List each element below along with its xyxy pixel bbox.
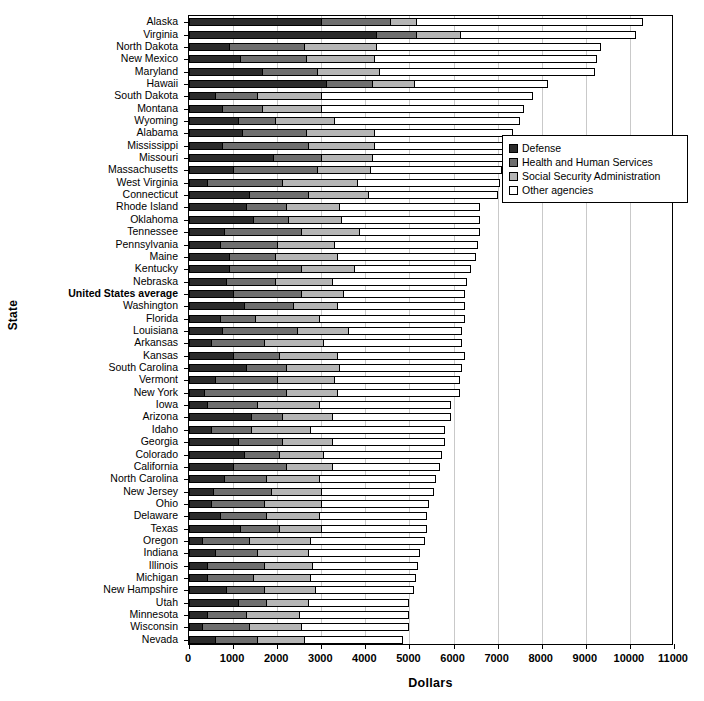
bar-kentucky <box>189 265 471 273</box>
bar-segment-other-agencies <box>337 389 460 397</box>
bar-segment-health-and-human-services <box>215 92 257 100</box>
bar-segment-defense <box>189 278 226 286</box>
bar-segment-social-security-administration <box>264 562 313 570</box>
bar-new-hampshire <box>189 586 414 594</box>
bar-segment-social-security-administration <box>286 389 337 397</box>
bar-segment-defense <box>189 611 207 619</box>
bar-south-dakota <box>189 92 533 100</box>
bar-segment-social-security-administration <box>277 376 334 384</box>
bar-segment-defense <box>189 179 207 187</box>
bar-minnesota <box>189 611 409 619</box>
bar-segment-health-and-human-services <box>207 179 282 187</box>
bar-connecticut <box>189 191 498 199</box>
bar-segment-social-security-administration <box>282 179 357 187</box>
bar-segment-health-and-human-services <box>215 549 257 557</box>
bar-segment-other-agencies <box>372 154 504 162</box>
bar-segment-health-and-human-services <box>321 18 389 26</box>
bar-segment-defense <box>189 525 240 533</box>
bar-segment-health-and-human-services <box>246 364 286 372</box>
bar-georgia <box>189 438 445 446</box>
bar-segment-health-and-human-services <box>220 512 266 520</box>
bar-segment-social-security-administration <box>253 574 310 582</box>
bar-segment-health-and-human-services <box>202 623 248 631</box>
bar-segment-defense <box>189 574 207 582</box>
bar-south-carolina <box>189 364 462 372</box>
bar-segment-other-agencies <box>374 142 511 150</box>
bar-segment-defense <box>189 599 238 607</box>
bar-arizona <box>189 413 451 421</box>
bar-segment-defense <box>189 191 249 199</box>
bar-segment-social-security-administration <box>301 228 358 236</box>
bar-segment-social-security-administration <box>266 599 308 607</box>
bar-segment-health-and-human-services <box>207 611 247 619</box>
category-label: Washington <box>22 300 178 311</box>
bar-maine <box>189 253 476 261</box>
bar-segment-health-and-human-services <box>229 43 304 51</box>
bar-segment-health-and-human-services <box>222 142 308 150</box>
bar-segment-defense <box>189 463 233 471</box>
bar-illinois <box>189 562 418 570</box>
bar-segment-social-security-administration <box>249 537 311 545</box>
bar-segment-social-security-administration <box>301 265 354 273</box>
category-label: California <box>22 461 178 472</box>
bar-nebraska <box>189 278 467 286</box>
bar-oklahoma <box>189 216 480 224</box>
bar-segment-social-security-administration <box>257 401 319 409</box>
legend-swatch-icon <box>509 158 518 167</box>
bar-segment-social-security-administration <box>255 315 319 323</box>
bar-california <box>189 463 440 471</box>
bar-segment-defense <box>189 55 240 63</box>
bar-arkansas <box>189 339 462 347</box>
category-label: Georgia <box>22 436 178 447</box>
bar-segment-health-and-human-services <box>238 117 275 125</box>
bar-north-dakota <box>189 43 601 51</box>
bar-segment-defense <box>189 290 233 298</box>
bar-segment-health-and-human-services <box>233 290 301 298</box>
bar-segment-social-security-administration <box>297 327 348 335</box>
bar-segment-other-agencies <box>332 438 444 446</box>
bar-segment-defense <box>189 549 215 557</box>
bar-segment-defense <box>189 68 262 76</box>
bar-segment-other-agencies <box>319 401 451 409</box>
bar-segment-health-and-human-services <box>207 574 253 582</box>
bars-container <box>189 16 672 644</box>
bar-segment-other-agencies <box>334 241 477 249</box>
x-axis-tick <box>321 644 322 649</box>
category-label: West Virginia <box>22 177 178 188</box>
bar-segment-defense <box>189 475 224 483</box>
legend-label: Other agencies <box>522 185 593 196</box>
x-axis-tick-label: 2000 <box>264 652 288 664</box>
x-axis-tick-label: 10000 <box>614 652 645 664</box>
bar-segment-other-agencies <box>370 166 502 174</box>
bar-segment-health-and-human-services <box>246 203 286 211</box>
legend-item: Social Security Administration <box>509 169 681 183</box>
x-axis-tick-label: 4000 <box>352 652 376 664</box>
bar-north-carolina <box>189 475 436 483</box>
category-label: Idaho <box>22 424 178 435</box>
bar-segment-social-security-administration <box>321 154 372 162</box>
bar-segment-defense <box>189 253 229 261</box>
bar-oregon <box>189 537 425 545</box>
bar-segment-defense <box>189 105 222 113</box>
bar-virginia <box>189 31 636 39</box>
bar-florida <box>189 315 465 323</box>
bar-segment-other-agencies <box>323 451 442 459</box>
bar-segment-social-security-administration <box>257 92 321 100</box>
bar-wyoming <box>189 117 520 125</box>
bar-segment-defense <box>189 265 229 273</box>
bar-segment-defense <box>189 43 229 51</box>
bar-segment-health-and-human-services <box>240 55 306 63</box>
bar-segment-health-and-human-services <box>224 475 266 483</box>
bar-segment-health-and-human-services <box>220 241 277 249</box>
bar-michigan <box>189 574 416 582</box>
bar-segment-social-security-administration <box>275 117 335 125</box>
bar-segment-social-security-administration <box>279 525 321 533</box>
bar-segment-social-security-administration <box>286 463 332 471</box>
bar-segment-defense <box>189 142 222 150</box>
x-axis-tick <box>586 644 587 649</box>
bar-segment-defense <box>189 31 376 39</box>
bar-segment-health-and-human-services <box>215 636 257 644</box>
bar-texas <box>189 525 427 533</box>
bar-segment-defense <box>189 401 207 409</box>
bar-segment-other-agencies <box>301 623 409 631</box>
